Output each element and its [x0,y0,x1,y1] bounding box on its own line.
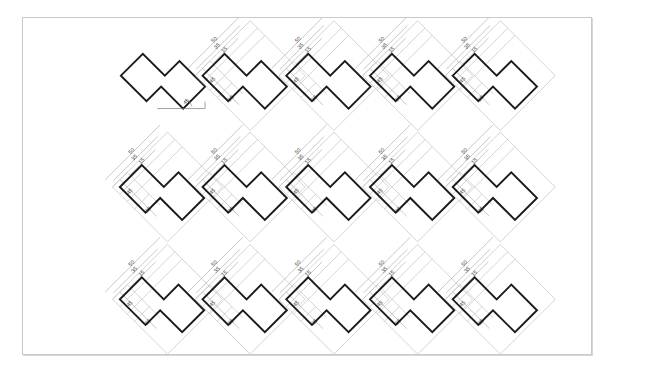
construction-offset-35 [370,139,425,194]
construction-offset-35 [453,252,508,307]
construction-offset-35 [286,139,341,194]
construction-offset-35 [120,139,175,194]
shape-instance[interactable]: 5035154525 [105,125,222,242]
construction-offset-35 [453,139,508,194]
shape-instance[interactable]: 5035154525 [272,125,389,242]
drawing-sheet-frame: 4550351545255035154525503515452550351545… [22,17,592,355]
construction-offset-35 [453,28,508,83]
shape-instance[interactable]: 5035154525 [438,237,555,354]
dim-15-text: 15 [470,157,478,165]
shape-instance[interactable]: 5035154525 [438,125,555,242]
dim-15-text: 15 [220,45,228,53]
construction-offset-35 [203,28,258,83]
construction-offset-35 [286,28,341,83]
shape-instance[interactable]: 5035154525 [188,237,305,354]
dim-15-text: 15 [304,45,312,53]
dim-15-text: 15 [137,269,145,277]
shape-instance[interactable]: 5035154525 [355,237,472,354]
dim-15-text: 15 [387,269,395,277]
construction-offset-35 [120,252,175,307]
dim-15-text: 15 [387,45,395,53]
shape-instance[interactable]: 45 [121,54,205,109]
dim-15-text: 15 [220,157,228,165]
construction-offset-35 [203,139,258,194]
shape-instance[interactable]: 5035154525 [105,237,222,354]
construction-offset-35 [370,28,425,83]
shape-instance[interactable]: 5035154525 [438,18,555,130]
dim-15-text: 15 [387,157,395,165]
shape-instance[interactable]: 5035154525 [188,125,305,242]
dim-15-text: 15 [304,269,312,277]
dim-15-text: 15 [137,157,145,165]
dimension-group: 5035154525 [438,18,555,130]
shape-instance[interactable]: 5035154525 [272,237,389,354]
construction-offset-35 [370,252,425,307]
dim-15-text: 15 [220,269,228,277]
construction-offset-35 [203,252,258,307]
drawing-canvas[interactable]: 4550351545255035154525503515452550351545… [23,18,591,354]
dim-15-text: 15 [470,269,478,277]
shape-instance[interactable]: 5035154525 [355,125,472,242]
dim-15-text: 15 [304,157,312,165]
shapes-layer: 4550351545255035154525503515452550351545… [105,18,555,354]
dim-15-text: 15 [470,45,478,53]
construction-offset-35 [286,252,341,307]
part-outline[interactable] [121,54,205,109]
